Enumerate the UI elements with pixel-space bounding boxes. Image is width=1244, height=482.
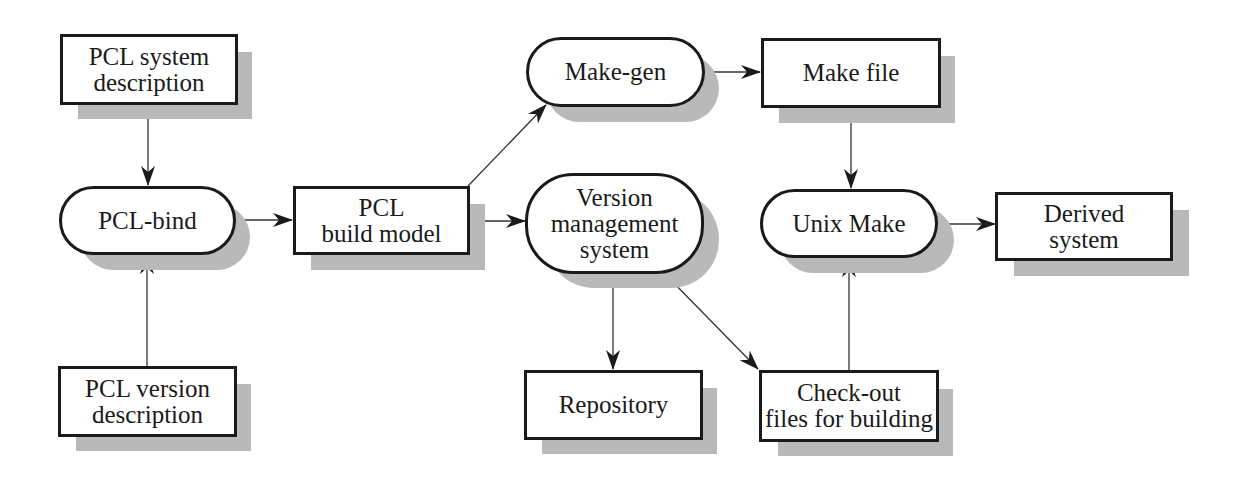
node-pcl-system-description: PCL system description bbox=[60, 34, 238, 105]
node-label: system bbox=[1049, 227, 1118, 253]
node-label: PCL system bbox=[89, 44, 210, 70]
node-label: Unix Make bbox=[792, 211, 905, 237]
node-make-gen: Make-gen bbox=[526, 37, 705, 107]
node-check-out-files: Check-out files for building bbox=[759, 370, 939, 442]
node-pcl-build-model: PCL build model bbox=[293, 186, 470, 255]
node-derived-system: Derived system bbox=[995, 192, 1173, 261]
node-label: PCL-bind bbox=[98, 208, 197, 234]
node-label: management bbox=[551, 211, 679, 237]
node-label: build model bbox=[321, 221, 441, 247]
node-label: files for building bbox=[765, 406, 933, 432]
node-label: description bbox=[92, 402, 203, 428]
node-label: Make-gen bbox=[565, 59, 666, 85]
node-label: Make file bbox=[803, 60, 899, 86]
node-label: description bbox=[93, 70, 204, 96]
node-repository: Repository bbox=[524, 370, 703, 440]
node-make-file: Make file bbox=[761, 38, 941, 108]
node-label: PCL bbox=[359, 195, 405, 221]
node-version-management-system: Version management system bbox=[525, 173, 704, 274]
node-label: Check-out bbox=[797, 380, 901, 406]
node-pcl-bind: PCL-bind bbox=[59, 186, 236, 255]
node-label: PCL version bbox=[85, 376, 210, 402]
node-label: Repository bbox=[559, 392, 669, 418]
node-label: system bbox=[580, 237, 649, 263]
node-unix-make: Unix Make bbox=[760, 189, 938, 258]
node-pcl-version-description: PCL version description bbox=[58, 366, 237, 437]
edge-build-model-to-make-gen bbox=[468, 105, 546, 186]
node-label: Version bbox=[576, 185, 652, 211]
node-label: Derived bbox=[1044, 201, 1125, 227]
